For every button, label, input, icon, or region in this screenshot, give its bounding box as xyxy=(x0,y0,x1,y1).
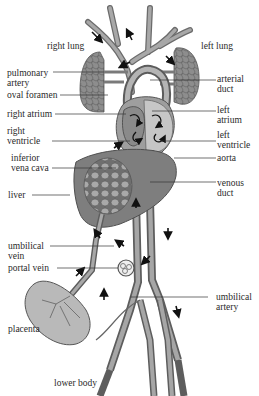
right-lung xyxy=(80,52,104,112)
umbilical-vein xyxy=(70,214,102,296)
label-venous-duct: venous duct xyxy=(217,178,244,198)
label-liver: liver xyxy=(8,190,25,200)
label-pulmonary-artery: pulmonary artery xyxy=(7,68,48,88)
label-placenta: placenta xyxy=(8,324,40,334)
liver-lobules xyxy=(84,158,132,214)
placenta xyxy=(25,281,90,345)
label-left-atrium: left atrium xyxy=(217,105,242,125)
label-left-lung: left lung xyxy=(201,41,233,51)
label-right-lung: right lung xyxy=(47,41,84,51)
label-umbilical-vein: umbilical vein xyxy=(8,241,44,261)
label-left-ventricle: left ventricle xyxy=(217,130,250,150)
heart xyxy=(116,97,174,157)
left-lung xyxy=(174,48,199,104)
label-aorta: aorta xyxy=(217,153,236,163)
label-oval-foramen: oval foramen xyxy=(7,90,57,100)
label-portal-vein: portal vein xyxy=(8,263,49,273)
fetal-circulation-diagram xyxy=(0,0,259,396)
label-right-atrium: right atrium xyxy=(7,109,52,119)
label-lower-body: lower body xyxy=(54,378,97,388)
label-inferior-vena-cava: inferior vena cava xyxy=(11,153,49,173)
label-right-ventricle: right ventricle xyxy=(7,126,40,146)
portal-vein-node xyxy=(118,260,134,276)
label-arterial-duct: arterial duct xyxy=(217,74,244,94)
label-umbilical-artery: umbilical artery xyxy=(216,292,252,312)
